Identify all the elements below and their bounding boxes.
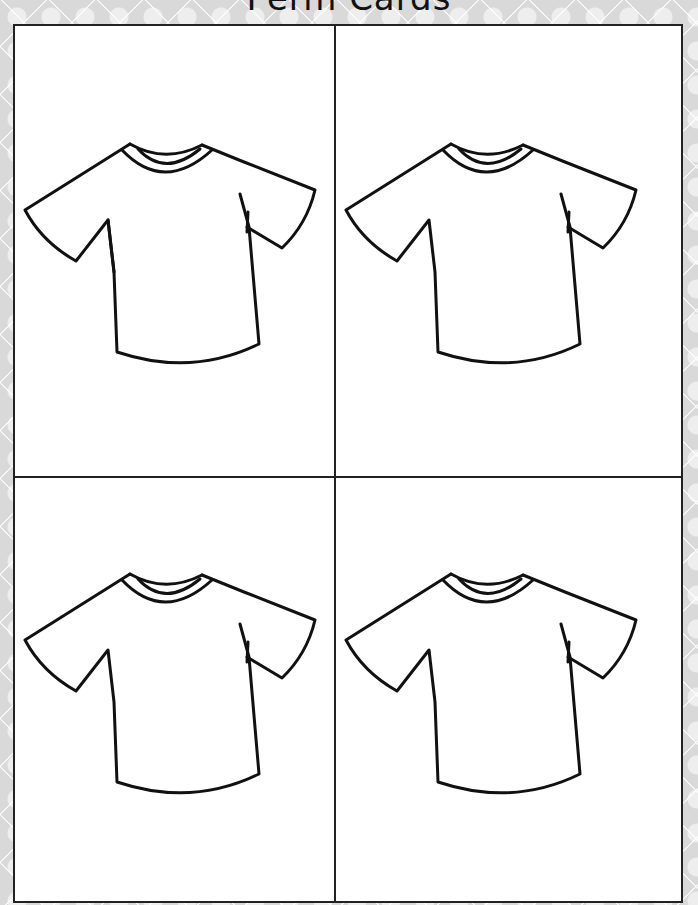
card-sheet — [13, 24, 683, 903]
card-3 — [15, 478, 334, 901]
page-title: Perm Cards — [0, 0, 698, 18]
card-1 — [15, 26, 334, 476]
tshirt-icon — [336, 478, 683, 901]
tshirt-icon — [336, 26, 683, 476]
card-4 — [336, 478, 683, 901]
tshirt-icon — [15, 26, 334, 476]
card-2 — [336, 26, 683, 476]
tshirt-icon — [15, 478, 334, 901]
